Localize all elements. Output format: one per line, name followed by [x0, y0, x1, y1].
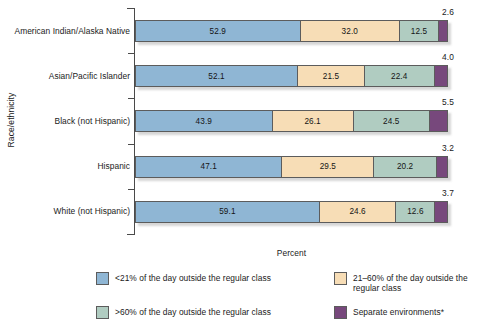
bar-row: Black (not Hispanic)43.926.124.55.55.5: [0, 98, 501, 143]
bar-wrapper: 59.124.612.63.73.7: [135, 201, 448, 223]
category-label: Black (not Hispanic): [8, 116, 130, 127]
stacked-bar[interactable]: 59.124.612.63.7: [135, 201, 448, 223]
segment-value: 52.1: [208, 72, 224, 81]
bar-segment-2[interactable]: 32.0: [301, 21, 401, 41]
legend-swatch-icon: [96, 272, 109, 285]
bar-segment-3[interactable]: 20.2: [374, 157, 437, 177]
category-label: Asian/Pacific Islander: [8, 70, 130, 81]
separate-environments-value: 2.6: [442, 7, 454, 17]
segment-value: 22.4: [391, 72, 407, 81]
segment-value: 47.1: [201, 162, 217, 171]
bar-segment-1[interactable]: 59.1: [136, 202, 320, 222]
bar-segment-1[interactable]: 47.1: [136, 157, 282, 177]
legend-swatch-icon: [334, 272, 347, 285]
category-label: American Indian/Alaska Native: [8, 25, 130, 36]
legend-swatch-icon: [96, 306, 109, 319]
bar-segment-2[interactable]: 21.5: [298, 66, 365, 86]
separate-environments-value: 3.7: [442, 188, 454, 198]
separate-environments-value: 4.0: [442, 52, 454, 62]
segment-value: 21.5: [323, 72, 339, 81]
bar-row: Hispanic47.129.520.23.23.2: [0, 144, 501, 189]
bar-segment-3[interactable]: 12.6: [396, 202, 435, 222]
bar-row: American Indian/Alaska Native52.932.012.…: [0, 8, 501, 53]
bar-segment-2[interactable]: 29.5: [282, 157, 374, 177]
category-label: White (not Hispanic): [8, 206, 130, 217]
bar-segment-3[interactable]: 24.5: [354, 111, 430, 131]
bar-wrapper: 52.932.012.52.62.6: [135, 20, 448, 42]
legend-item[interactable]: >60% of the day outside the regular clas…: [96, 306, 334, 319]
bar-segment-2[interactable]: 26.1: [273, 111, 354, 131]
stacked-bar[interactable]: 43.926.124.55.5: [135, 110, 448, 132]
stacked-bar-chart: Race/ethnicity American Indian/Alaska Na…: [0, 0, 501, 326]
segment-value: 24.6: [349, 207, 365, 216]
segment-value: 52.9: [210, 27, 226, 36]
bar-segment-4[interactable]: 3.7: [435, 202, 447, 222]
separate-environments-value: 3.2: [442, 143, 454, 153]
bar-segment-1[interactable]: 52.9: [136, 21, 301, 41]
legend-item[interactable]: Separate environments*: [334, 306, 496, 319]
bar-segment-4[interactable]: 2.6: [439, 21, 447, 41]
y-axis-bottom-cap: [127, 234, 135, 235]
legend-label: >60% of the day outside the regular clas…: [115, 306, 271, 317]
x-axis-title: Percent: [135, 248, 448, 258]
legend-label: 21–60% of the day outside the regular cl…: [353, 272, 496, 293]
bar-segment-1[interactable]: 52.1: [136, 66, 298, 86]
segment-value: 20.2: [397, 162, 413, 171]
legend-label: Separate environments*: [353, 306, 444, 317]
plot-area: American Indian/Alaska Native52.932.012.…: [0, 0, 501, 245]
separate-environments-value: 5.5: [442, 97, 454, 107]
segment-value: 32.0: [342, 27, 358, 36]
bar-segment-4[interactable]: 3.2: [437, 157, 447, 177]
segment-value: 43.9: [196, 117, 212, 126]
bar-wrapper: 43.926.124.55.55.5: [135, 110, 448, 132]
bar-row: White (not Hispanic)59.124.612.63.73.7: [0, 189, 501, 234]
segment-value: 12.5: [411, 27, 427, 36]
bar-segment-3[interactable]: 12.5: [400, 21, 439, 41]
segment-value: 26.1: [304, 117, 320, 126]
segment-value: 12.6: [407, 207, 423, 216]
stacked-bar[interactable]: 47.129.520.23.2: [135, 156, 448, 178]
bar-segment-2[interactable]: 24.6: [320, 202, 397, 222]
legend-item[interactable]: 21–60% of the day outside the regular cl…: [334, 272, 496, 293]
category-label: Hispanic: [8, 161, 130, 172]
bar-segment-1[interactable]: 43.9: [136, 111, 273, 131]
legend-item[interactable]: <21% of the day outside the regular clas…: [96, 272, 334, 293]
segment-value: 24.5: [383, 117, 399, 126]
legend-swatch-icon: [334, 306, 347, 319]
legend-label: <21% of the day outside the regular clas…: [115, 272, 271, 283]
bar-segment-3[interactable]: 22.4: [365, 66, 435, 86]
chart-legend: <21% of the day outside the regular clas…: [96, 272, 496, 319]
bar-wrapper: 52.121.522.44.04.0: [135, 65, 448, 87]
segment-value: 29.5: [320, 162, 336, 171]
segment-value: 59.1: [219, 207, 235, 216]
bar-row: Asian/Pacific Islander52.121.522.44.04.0: [0, 53, 501, 98]
bar-wrapper: 47.129.520.23.23.2: [135, 156, 448, 178]
bar-segment-4[interactable]: 4.0: [435, 66, 447, 86]
stacked-bar[interactable]: 52.932.012.52.6: [135, 20, 448, 42]
bar-segment-4[interactable]: 5.5: [430, 111, 447, 131]
stacked-bar[interactable]: 52.121.522.44.0: [135, 65, 448, 87]
